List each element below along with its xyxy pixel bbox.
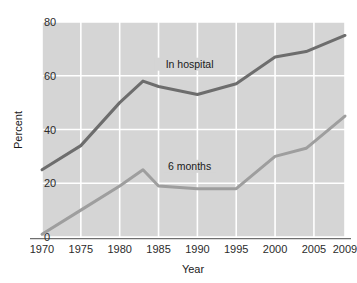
y-tick-label: 60 — [44, 70, 56, 82]
x-axis-tick-labels: 197019751980198519901995200020052009 — [30, 243, 357, 255]
series-label: In hospital — [166, 58, 214, 70]
x-tick-label: 1985 — [146, 243, 170, 255]
x-tick-label: 1975 — [69, 243, 93, 255]
line-chart: 020406080 197019751980198519901995200020… — [0, 0, 357, 283]
series-label: 6 months — [168, 160, 211, 172]
x-tick-label: 2000 — [263, 243, 287, 255]
y-axis-title: Percent — [12, 111, 24, 149]
y-tick-label: 20 — [44, 177, 56, 189]
x-tick-label: 2005 — [302, 243, 326, 255]
chart-container: 020406080 197019751980198519901995200020… — [0, 0, 357, 283]
x-tick-label: 1970 — [30, 243, 54, 255]
y-tick-label: 40 — [44, 124, 56, 136]
x-tick-label: 2009 — [333, 243, 357, 255]
x-tick-label: 1980 — [107, 243, 131, 255]
x-axis-title: Year — [182, 263, 205, 275]
y-tick-label: 80 — [44, 16, 56, 28]
x-tick-label: 1995 — [224, 243, 248, 255]
x-tick-label: 1990 — [185, 243, 209, 255]
